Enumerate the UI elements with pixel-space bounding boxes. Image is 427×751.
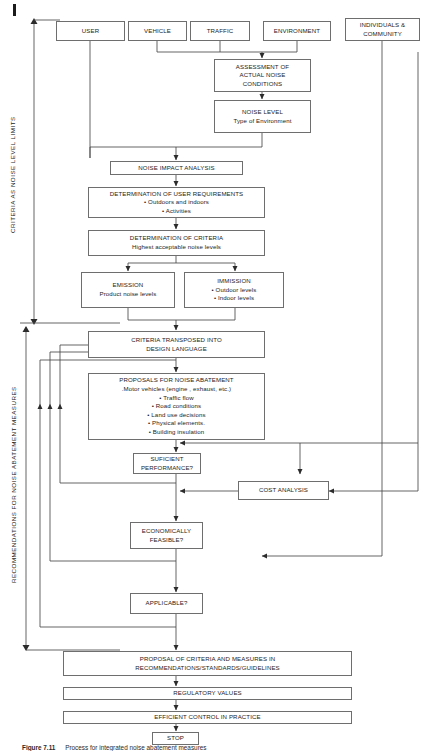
side-label-criteria: CRITERIA AS NOISE LEVEL LIMITS (6, 95, 20, 255)
node-transposed-line1: CRITERIA TRANSPOSED INTO (131, 336, 222, 345)
node-assessment[interactable]: ASSESSMENT OF ACTUAL NOISE CONDITIONS (214, 59, 311, 92)
node-individuals-line2: COMMUNITY (363, 30, 402, 39)
node-determination-criteria[interactable]: DETERMINATION OF CRITERIA Highest accept… (88, 230, 265, 256)
node-user-title: USER (82, 27, 99, 36)
node-traffic-title: TRAFFIC (207, 27, 234, 36)
node-noise-impact-analysis[interactable]: NOISE IMPACT ANALYSIS (110, 161, 243, 175)
node-individuals-community[interactable]: INDIVIDUALS & COMMUNITY (345, 18, 420, 41)
node-cost-title: COST ANALYSIS (259, 486, 308, 495)
node-immission-item-1: • Indoor levels (214, 294, 254, 303)
node-proposal-final-line1: PROPOSAL OF CRITERIA AND MEASURES IN (140, 655, 275, 664)
node-user-req-item-0: • Outdoors and indoors (144, 198, 209, 207)
node-applicable[interactable]: APPLICABLE? (130, 593, 203, 614)
node-proposals-item-4: • Physical elements. (148, 419, 205, 428)
node-transposed-line2: DESIGN LANGUAGE (146, 345, 207, 354)
node-traffic[interactable]: TRAFFIC (190, 21, 250, 41)
node-user-req-title: DETERMINATION OF USER REQUIREMENTS (110, 190, 244, 199)
node-criteria-title: DETERMINATION OF CRITERIA (130, 234, 223, 243)
node-user-requirements[interactable]: DETERMINATION OF USER REQUIREMENTS • Out… (88, 187, 265, 218)
node-efficient-title: EFFICIENT CONTROL IN PRACTICE (154, 713, 260, 722)
figure-caption-text: Process for integrated noise abatement m… (65, 744, 206, 751)
node-proposals-item-5: • Building insulation (149, 428, 204, 437)
node-immission[interactable]: IMMISSION • Outdoor levels • Indoor leve… (184, 272, 284, 308)
node-noise-level-title: NOISE LEVEL (242, 108, 283, 117)
node-noise-level-sub: Type of Environment (233, 117, 291, 126)
node-sufficient-line1: SUFICIENT (150, 455, 183, 464)
node-user[interactable]: USER (56, 21, 125, 41)
node-assessment-line1: ASSESSMENT OF (236, 63, 289, 72)
node-vehicle-title: VEHICLE (144, 27, 171, 36)
node-regulatory-title: REGULATORY VALUES (173, 689, 242, 698)
node-user-req-item-1: • Activities (162, 207, 191, 216)
node-efficient-control[interactable]: EFFICIENT CONTROL IN PRACTICE (63, 711, 352, 724)
figure-caption-label: Figure 7.11 (22, 744, 55, 751)
node-sufficient-line2: PERFORMANCE? (141, 464, 193, 473)
node-assessment-line3: CONDITIONS (243, 80, 282, 89)
node-impact-title: NOISE IMPACT ANALYSIS (138, 164, 214, 173)
node-proposals[interactable]: PROPOSALS FOR NOISE ABATEMENT .Motor veh… (88, 373, 265, 440)
node-economically-line1: ECONOMICALLY (142, 527, 191, 536)
node-proposals-title: PROPOSALS FOR NOISE ABATEMENT (119, 376, 233, 385)
node-proposal-final[interactable]: PROPOSAL OF CRITERIA AND MEASURES IN REC… (63, 651, 352, 676)
node-noise-level[interactable]: NOISE LEVEL Type of Environment (214, 100, 311, 133)
node-emission[interactable]: EMISSION Product noise levels (81, 272, 175, 308)
node-environment-title: ENVIRONMENT (274, 27, 320, 36)
node-cost-analysis[interactable]: COST ANALYSIS (238, 481, 329, 500)
node-environment[interactable]: ENVIRONMENT (263, 21, 331, 41)
node-immission-title: IMMISSION (217, 277, 251, 286)
node-proposals-item-2: • Road conditions (152, 402, 202, 411)
node-stop-title: STOP (167, 734, 184, 743)
node-vehicle[interactable]: VEHICLE (128, 21, 187, 41)
node-applicable-title: APPLICABLE? (146, 599, 188, 608)
side-label-recommendations: RECOMMENDATIONS FOR NOISE ABATEMENT MEAS… (4, 370, 24, 600)
node-sufficient-performance[interactable]: SUFICIENT PERFORMANCE? (133, 453, 201, 474)
node-criteria-transposed[interactable]: CRITERIA TRANSPOSED INTO DESIGN LANGUAGE (88, 331, 265, 358)
node-emission-title: EMISSION (113, 281, 144, 290)
node-individuals-line1: INDIVIDUALS & (360, 21, 406, 30)
node-proposals-item-3: • Land use decisions (147, 411, 205, 420)
figure-caption: Figure 7.11 Process for integrated noise… (22, 744, 207, 751)
node-assessment-line2: ACTUAL NOISE (240, 71, 286, 80)
node-emission-sub: Product noise levels (100, 290, 157, 299)
node-immission-item-0: • Outdoor levels (211, 286, 256, 295)
node-regulatory-values[interactable]: REGULATORY VALUES (63, 687, 352, 700)
node-economically-feasible[interactable]: ECONOMICALLY FEASIBLE? (130, 522, 203, 549)
node-proposal-final-line2: RECOMMENDATIONS/STANDARDS/GUIDELINES (135, 664, 280, 673)
node-economically-line2: FEASIBLE? (150, 536, 184, 545)
node-proposals-item-1: • Traffic flow (159, 394, 194, 403)
node-proposals-item-0: .Motor vehicles (engine , exhaust, etc.) (122, 385, 231, 394)
node-criteria-sub: Highest acceptable noise levels (132, 243, 221, 252)
